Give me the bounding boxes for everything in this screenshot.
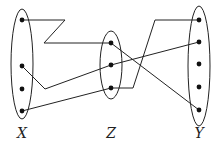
point-x3 [20,87,25,92]
point-y4 [197,85,202,90]
point-z2 [109,63,114,68]
mapping-diagram: XZY [0,0,220,144]
set-y-label: Y [194,125,205,141]
set-z-label: Z [105,125,116,141]
edge-x1-z1 [22,20,111,43]
set-x: X [11,9,33,141]
point-x1 [20,18,25,23]
point-x2 [20,64,25,69]
point-y3 [197,62,202,67]
sets: XZY [11,6,210,141]
point-x4 [20,109,25,114]
edge-x2-z2 [22,65,111,89]
point-z1 [109,41,114,46]
edge-x4-z3 [22,88,111,111]
set-y: Y [188,6,210,141]
set-x-label: X [16,125,28,141]
point-y1 [197,18,202,23]
set-z: Z [100,31,122,141]
point-y2 [197,40,202,45]
point-z3 [109,86,114,91]
point-y5 [197,108,202,113]
